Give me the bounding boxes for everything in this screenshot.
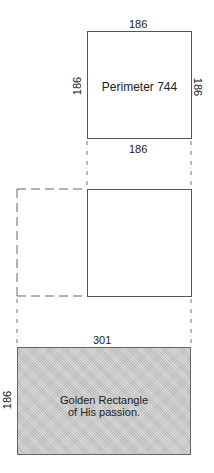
square-left-label: 186 [71, 77, 83, 95]
golden-caption-line2: of His passion. [18, 406, 190, 418]
golden-width-label: 301 [93, 334, 111, 346]
square-bottom-label: 186 [129, 143, 147, 155]
square-copy [87, 189, 192, 297]
square-186: Perimeter 744 [87, 31, 192, 139]
perimeter-label: Perimeter 744 [88, 81, 191, 93]
golden-rectangle: Golden Rectangle of His passion. [17, 347, 191, 455]
golden-caption-line1: Golden Rectangle [18, 394, 190, 406]
square-right-label: 186 [192, 78, 204, 96]
square-top-label: 186 [129, 18, 147, 30]
golden-height-label: 186 [1, 391, 13, 409]
